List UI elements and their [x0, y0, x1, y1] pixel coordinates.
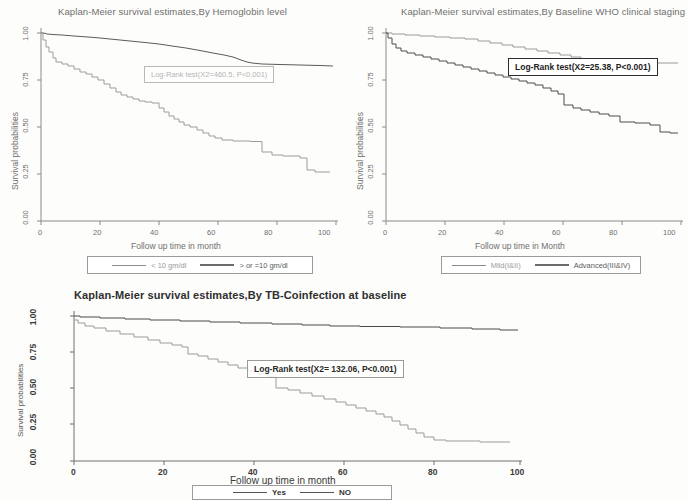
plot-area-hemoglobin: [0, 0, 345, 240]
legend-tb-coinfection: Yes NO: [192, 485, 392, 500]
legend-line-swatch-icon: [535, 264, 569, 266]
legend-item[interactable]: NO: [300, 488, 351, 497]
x-axis-title-who-staging: Follow up time in Month: [475, 241, 565, 251]
legend-line-swatch-icon: [233, 492, 267, 493]
log-rank-annotation-hemoglobin: Log-Rank test(X2=460.5, P<0.001): [144, 66, 274, 83]
legend-hemoglobin: < 10 gm/dl > or =10 gm/dl: [87, 256, 313, 274]
survival-curve-advanced: [386, 33, 678, 133]
legend-label: > or =10 gm/dl: [239, 261, 287, 270]
legend-label: Mild(I&II): [491, 261, 521, 270]
plot-area-who-staging: [345, 0, 689, 240]
legend-who-staging: Mild(I&II) Advanced(III&IV): [441, 256, 641, 274]
survival-curve-low-hb: [41, 33, 330, 172]
survival-curve-no-tb: [74, 316, 518, 330]
legend-label: Advanced(III&IV): [574, 261, 631, 270]
legend-line-swatch-icon: [452, 265, 486, 266]
log-rank-annotation-tb-coinfection: Log-Rank test(X2= 132.06, P<0.001): [247, 360, 404, 378]
legend-label: NO: [339, 488, 351, 497]
x-axis-title-hemoglobin: Follow up time in month: [131, 241, 221, 251]
legend-line-swatch-icon: [300, 492, 334, 494]
legend-label: < 10 gm/dl: [151, 261, 186, 270]
plot-area-tb-coinfection: [10, 285, 530, 481]
chart-panel-hemoglobin: Kaplan-Meier survival estimates,By Hemog…: [0, 0, 345, 278]
survival-curve-high-hb: [41, 33, 333, 66]
legend-item[interactable]: Advanced(III&IV): [535, 261, 631, 270]
survival-curve-yes-tb: [74, 320, 510, 442]
legend-line-swatch-icon: [112, 265, 146, 266]
legend-item[interactable]: Mild(I&II): [452, 261, 521, 270]
legend-item[interactable]: Yes: [233, 488, 286, 497]
chart-panel-tb-coinfection: Kaplan-Meier survival estimates,By TB-Co…: [10, 285, 530, 501]
legend-label: Yes: [272, 488, 286, 497]
legend-item[interactable]: > or =10 gm/dl: [200, 261, 287, 270]
legend-line-swatch-icon: [200, 264, 234, 266]
chart-panel-who-staging: Kaplan-Meier survival estimates,By Basel…: [345, 0, 689, 278]
legend-item[interactable]: < 10 gm/dl: [112, 261, 186, 270]
log-rank-annotation-who-staging: Log-Rank test(X2=25.38, P<0.001): [508, 58, 658, 76]
